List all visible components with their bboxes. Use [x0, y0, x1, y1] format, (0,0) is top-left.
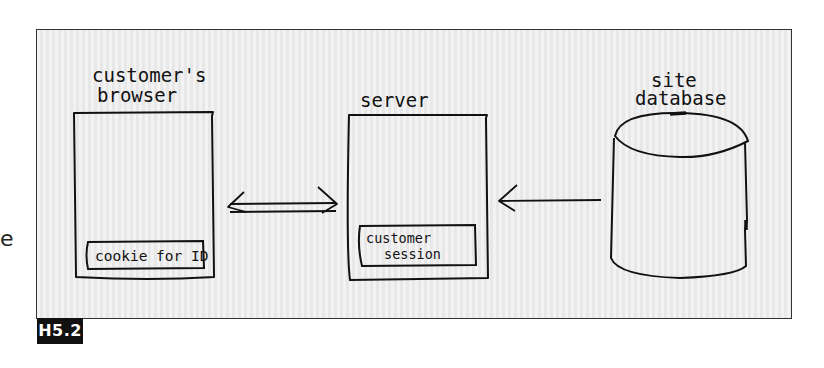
database-node: site database [611, 69, 748, 278]
browser-title-line2: browser [97, 84, 177, 106]
database-title-line2: database [635, 87, 727, 109]
cookie-label: cookie for ID [95, 248, 209, 264]
cookie-box: cookie for ID [87, 241, 209, 269]
database-cylinder-icon [611, 113, 748, 278]
bidirectional-arrow [228, 187, 337, 213]
session-label-line1: customer [366, 230, 431, 246]
server-node: server customer session [348, 89, 488, 280]
browser-node: customer's browser cookie for ID [74, 64, 214, 279]
session-box: customer session [359, 225, 476, 266]
database-to-server-arrow [499, 185, 601, 211]
diagram-canvas: customer's browser cookie for ID server … [0, 0, 824, 368]
browser-title-line1: customer's [92, 64, 206, 86]
session-label-line2: session [384, 246, 441, 262]
server-title: server [360, 89, 429, 111]
